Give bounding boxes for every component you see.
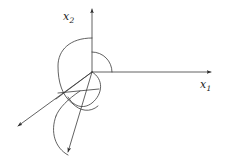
cone-mid-arc (56, 91, 80, 116)
x1-axis-label: x1 (200, 79, 211, 90)
cone-edge-ray-line (68, 72, 92, 152)
x2-axis-label: x2 (63, 11, 74, 22)
cone-lower-arc (53, 116, 68, 155)
coordinate-axes-diagram (0, 0, 229, 167)
quadrant-arc-small (92, 52, 112, 72)
figure-canvas: x2 x1 (0, 0, 229, 167)
